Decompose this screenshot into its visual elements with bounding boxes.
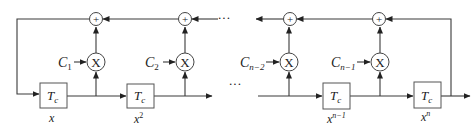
coef-label: C1 (58, 55, 72, 72)
coef-label: C2 (145, 55, 159, 72)
ellipsis-bottom: ··· (229, 76, 242, 91)
svg-text:+: + (93, 13, 99, 25)
delay-block-1: Tc x (40, 83, 67, 125)
adder-chain (103, 19, 451, 96)
svg-text:+: + (376, 13, 382, 25)
delay-block-2: Tc x2 (127, 84, 154, 126)
adder-2: + (179, 13, 192, 26)
delay-caption: x2 (133, 111, 143, 126)
delay-caption: xn (420, 109, 430, 124)
svg-text:X: X (375, 55, 385, 70)
ellipsis-top: ··· (218, 10, 231, 25)
delay-block-3: Tc xn−1 (323, 83, 350, 126)
delay-caption: x (48, 111, 55, 125)
delay-block-4: Tc xn (414, 82, 441, 124)
svg-text:X: X (91, 55, 101, 70)
coef-label: Cn−1 (331, 55, 355, 72)
adder-1: + (90, 13, 103, 26)
adder-3: + (284, 13, 297, 26)
svg-text:X: X (180, 55, 190, 70)
block-diagram: Tc x Tc x2 Tc xn−1 Tc xn X C1 X C2 X Cn−… (0, 0, 475, 127)
svg-text:+: + (182, 13, 188, 25)
svg-text:X: X (284, 55, 294, 70)
delay-caption: xn−1 (326, 111, 346, 126)
adder-4: + (373, 13, 386, 26)
svg-text:+: + (287, 13, 293, 25)
coef-label: Cn−2 (240, 55, 265, 72)
